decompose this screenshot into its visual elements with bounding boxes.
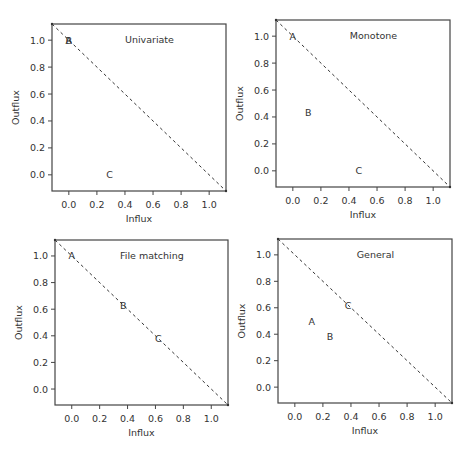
- x-tick-label: 0.6: [145, 199, 160, 210]
- point-label-c: C: [355, 165, 362, 176]
- line-endpoint: [449, 186, 451, 188]
- x-tick-label: 0.4: [120, 413, 135, 424]
- x-tick-label: 0.6: [369, 195, 384, 206]
- y-tick-label: 1.0: [30, 35, 45, 46]
- x-tick-label: 1.0: [428, 411, 443, 422]
- point-label-b: B: [305, 107, 312, 118]
- y-tick-label: 0.2: [256, 355, 271, 366]
- panel-title: General: [357, 249, 394, 260]
- x-tick-label: 0.0: [64, 413, 79, 424]
- y-tick-label: 0.8: [30, 62, 45, 73]
- x-tick-label: 1.0: [426, 195, 441, 206]
- y-tick-label: 0.0: [256, 382, 271, 393]
- point-label-c: C: [106, 169, 113, 180]
- panel-title: Monotone: [350, 30, 397, 41]
- line-endpoint: [54, 239, 56, 241]
- point-label-c: C: [155, 333, 162, 344]
- y-tick-label: 0.4: [254, 111, 269, 122]
- y-tick-label: 0.0: [33, 384, 48, 395]
- y-axis-label: Outflux: [13, 305, 24, 340]
- y-tick-label: 0.2: [30, 142, 45, 153]
- panel-univariate: 0.00.20.40.60.81.00.00.20.40.60.81.0Infl…: [10, 23, 227, 224]
- x-tick-label: 0.6: [371, 411, 386, 422]
- x-tick-label: 0.2: [313, 195, 328, 206]
- point-label-a: A: [308, 316, 315, 327]
- y-tick-label: 0.8: [256, 276, 271, 287]
- x-tick-label: 0.4: [341, 195, 356, 206]
- panel-title: Univariate: [125, 34, 174, 45]
- x-axis-label: Influx: [350, 209, 377, 220]
- panel-title: File matching: [120, 250, 184, 261]
- point-label-c: C: [345, 300, 352, 311]
- y-tick-label: 0.6: [33, 304, 48, 315]
- point-label-b: B: [120, 300, 127, 311]
- x-axis-label: Influx: [352, 425, 379, 436]
- x-axis-label: Influx: [128, 427, 155, 438]
- plot-frame: [278, 239, 452, 403]
- x-tick-label: 0.0: [287, 411, 302, 422]
- diagonal-reference-line: [278, 239, 452, 403]
- x-tick-label: 1.0: [202, 199, 217, 210]
- y-tick-label: 0.4: [33, 330, 48, 341]
- panel-monotone: 0.00.20.40.60.81.00.00.20.40.60.81.0Infl…: [234, 19, 451, 220]
- line-endpoint: [275, 19, 277, 21]
- chart-canvas: 0.00.20.40.60.81.00.00.20.40.60.81.0Infl…: [0, 0, 467, 456]
- point-label-a: A: [290, 31, 297, 42]
- panel-general: 0.00.20.40.60.81.00.00.20.40.60.81.0Infl…: [236, 238, 453, 436]
- x-tick-label: 0.0: [61, 199, 76, 210]
- y-tick-label: 1.0: [33, 250, 48, 261]
- x-tick-label: 0.8: [176, 413, 191, 424]
- x-tick-label: 1.0: [204, 413, 219, 424]
- x-tick-label: 0.8: [398, 195, 413, 206]
- x-tick-label: 0.2: [315, 411, 330, 422]
- y-tick-label: 0.2: [254, 138, 269, 149]
- x-tick-label: 0.4: [343, 411, 358, 422]
- y-axis-label: Outflux: [236, 303, 247, 338]
- line-endpoint: [51, 23, 53, 25]
- x-tick-label: 0.0: [285, 195, 300, 206]
- x-tick-label: 0.4: [117, 199, 132, 210]
- line-endpoint: [225, 190, 227, 192]
- y-tick-label: 0.0: [30, 169, 45, 180]
- y-tick-label: 0.0: [254, 165, 269, 176]
- y-axis-label: Outflux: [234, 86, 245, 121]
- y-tick-label: 0.6: [254, 85, 269, 96]
- line-endpoint: [451, 402, 453, 404]
- line-endpoint: [277, 238, 279, 240]
- x-axis-label: Influx: [126, 213, 153, 224]
- x-tick-label: 0.2: [89, 199, 104, 210]
- diagonal-reference-line: [55, 240, 228, 405]
- y-tick-label: 0.6: [256, 302, 271, 313]
- diagonal-reference-line: [52, 24, 226, 191]
- y-tick-label: 0.2: [33, 357, 48, 368]
- line-endpoint: [227, 404, 229, 406]
- y-tick-label: 0.8: [33, 277, 48, 288]
- diagonal-reference-line: [276, 20, 450, 187]
- y-tick-label: 1.0: [256, 249, 271, 260]
- y-axis-label: Outflux: [10, 90, 21, 125]
- y-tick-label: 0.4: [30, 115, 45, 126]
- x-tick-label: 0.6: [148, 413, 163, 424]
- y-tick-label: 0.4: [256, 329, 271, 340]
- y-tick-label: 0.8: [254, 58, 269, 69]
- y-tick-label: 1.0: [254, 31, 269, 42]
- point-label-b: B: [327, 331, 334, 342]
- x-tick-label: 0.2: [92, 413, 107, 424]
- point-label-b: B: [66, 35, 73, 46]
- x-tick-label: 0.8: [400, 411, 415, 422]
- y-tick-label: 0.6: [30, 89, 45, 100]
- x-tick-label: 0.8: [174, 199, 189, 210]
- panel-file-matching: 0.00.20.40.60.81.00.00.20.40.60.81.0Infl…: [13, 239, 229, 438]
- point-label-a: A: [68, 250, 75, 261]
